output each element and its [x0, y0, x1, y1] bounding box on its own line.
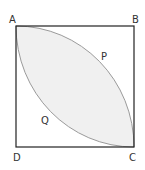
geometry-diagram	[0, 0, 145, 170]
vertex-label-b: B	[132, 15, 139, 25]
shaded-lens-region	[16, 26, 134, 147]
vertex-label-d: D	[13, 153, 21, 163]
region-label-p: P	[101, 52, 107, 62]
region-label-q: Q	[41, 116, 49, 126]
vertex-label-c: C	[129, 153, 136, 163]
vertex-label-a: A	[9, 15, 16, 25]
